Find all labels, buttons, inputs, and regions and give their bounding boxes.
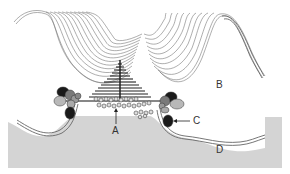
pointer-arrowhead-a xyxy=(114,108,118,112)
cell-diagram-svg xyxy=(0,0,290,174)
right-outer-membrane xyxy=(222,16,264,78)
label-d: D xyxy=(216,145,223,155)
label-c: C xyxy=(193,116,200,126)
left-fiber-bundle xyxy=(14,10,142,83)
label-b: B xyxy=(216,80,223,90)
left-protein-cluster xyxy=(54,87,81,119)
right-protein-cluster xyxy=(159,92,184,127)
bead-chain xyxy=(94,97,153,119)
label-a: A xyxy=(112,126,119,136)
pointer-arrowhead-c xyxy=(173,119,177,123)
